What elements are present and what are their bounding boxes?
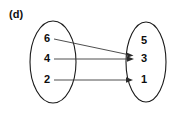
- codomain-element-5: 5: [141, 34, 147, 46]
- panel-label: (d): [9, 8, 23, 20]
- codomain-element-3: 3: [141, 52, 147, 64]
- codomain-element-1: 1: [141, 73, 147, 85]
- domain-element-6: 6: [44, 32, 50, 44]
- domain-set-outline: [30, 21, 76, 103]
- domain-element-4: 4: [44, 52, 51, 64]
- arrow-2-to-1: [54, 77, 133, 82]
- domain-element-2: 2: [44, 73, 50, 85]
- arrow-6-to-3: [54, 39, 134, 58]
- arrow-4-to-3: [54, 56, 134, 61]
- mapping-diagram-figure: (d) 6 4 2 5 3 1: [0, 0, 178, 121]
- diagram-canvas: (d) 6 4 2 5 3 1: [0, 0, 178, 121]
